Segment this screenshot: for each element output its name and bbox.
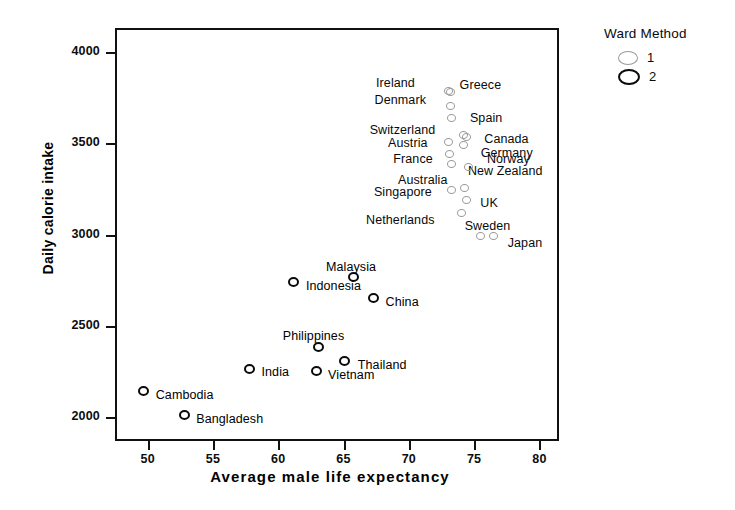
legend-entry-2[interactable]: 2 — [618, 67, 732, 86]
y-tick-mark — [106, 235, 115, 237]
point-label-austria: Austria — [388, 137, 428, 150]
y-axis-title: Daily calorie intake — [40, 98, 56, 318]
x-axis-title: Average male life expectancy — [0, 468, 660, 485]
point-label-ireland: Ireland — [376, 77, 415, 90]
point-label-sweden: Sweden — [465, 220, 511, 233]
point-label-spain: Spain — [470, 112, 502, 125]
point-label-japan: Japan — [508, 237, 543, 250]
y-tick-label: 2500 — [38, 318, 100, 332]
y-tick-mark — [106, 326, 115, 328]
legend-entry-label: 1 — [647, 50, 654, 65]
legend-entries: 12 — [604, 48, 732, 86]
legend-marker-icon — [618, 69, 640, 85]
point-label-cambodia: Cambodia — [156, 389, 214, 402]
y-tick-label: 4000 — [38, 44, 100, 58]
point-label-india: India — [262, 366, 290, 379]
y-tick-mark — [106, 143, 115, 145]
point-label-norway: Norway — [487, 153, 530, 166]
point-label-malaysia: Malaysia — [326, 261, 376, 274]
data-point-netherlands — [457, 209, 466, 217]
point-label-vietnam: Vietnam — [328, 369, 374, 382]
legend-entry-1[interactable]: 1 — [618, 48, 732, 67]
scatter-plot-figure: 20002500300035004000 50556065707580 Irel… — [0, 0, 735, 510]
point-label-netherlands: Netherlands — [366, 214, 435, 227]
x-tick-mark — [539, 441, 541, 450]
legend: Ward Method 12 — [604, 26, 732, 86]
legend-title: Ward Method — [604, 26, 732, 41]
y-tick-mark — [106, 52, 115, 54]
point-label-denmark: Denmark — [375, 94, 426, 107]
legend-entry-label: 2 — [649, 69, 656, 84]
x-tick-label: 65 — [324, 452, 364, 466]
point-label-indonesia: Indonesia — [306, 280, 361, 293]
data-point-vietnam — [311, 366, 322, 376]
data-point-china — [368, 293, 379, 303]
legend-marker-icon — [618, 51, 638, 65]
point-label-uk: UK — [480, 197, 498, 210]
data-point-spain — [447, 114, 456, 122]
data-point-denmark — [446, 102, 455, 110]
data-point-canada — [462, 133, 471, 141]
x-tick-label: 50 — [128, 452, 168, 466]
point-label-bangladesh: Bangladesh — [196, 413, 263, 426]
point-label-new-zealand: New Zealand — [468, 165, 543, 178]
data-point-greece — [446, 88, 455, 96]
data-point-austria — [444, 138, 453, 146]
x-tick-mark — [474, 441, 476, 450]
point-label-china: China — [386, 296, 419, 309]
x-tick-label: 80 — [519, 452, 559, 466]
x-tick-mark — [344, 441, 346, 450]
x-tick-mark — [148, 441, 150, 450]
point-label-canada: Canada — [484, 133, 528, 146]
x-tick-mark — [278, 441, 280, 450]
data-point-uk — [462, 196, 471, 204]
point-label-greece: Greece — [460, 79, 502, 92]
point-label-philippines: Philippines — [283, 330, 345, 343]
data-point-france — [445, 150, 454, 158]
data-point-philippines — [313, 342, 324, 352]
y-tick-label: 2000 — [38, 409, 100, 423]
data-point-india — [244, 364, 255, 374]
x-tick-label: 60 — [258, 452, 298, 466]
x-tick-mark — [409, 441, 411, 450]
point-label-france: France — [393, 153, 433, 166]
data-point-thailand — [339, 356, 350, 366]
point-label-switzerland: Switzerland — [370, 124, 436, 137]
x-tick-mark — [213, 441, 215, 450]
y-tick-mark — [106, 417, 115, 419]
x-tick-label: 75 — [454, 452, 494, 466]
data-point-cambodia — [138, 386, 149, 396]
point-label-singapore: Singapore — [374, 186, 432, 199]
x-tick-label: 55 — [193, 452, 233, 466]
x-tick-label: 70 — [389, 452, 429, 466]
